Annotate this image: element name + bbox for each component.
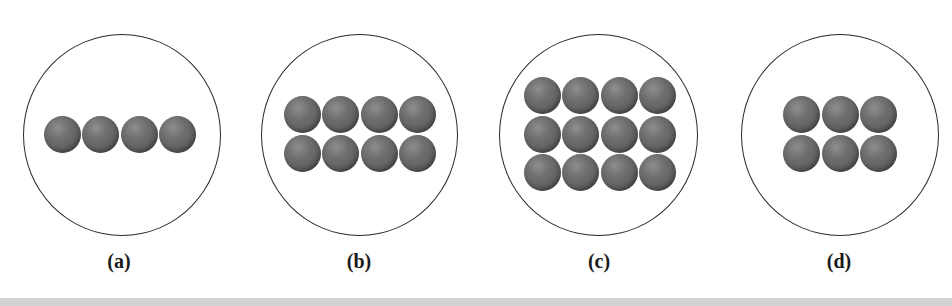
sphere-icon [562,154,599,191]
sphere-icon [562,116,599,153]
sphere-icon [121,116,158,153]
sphere-icon [601,77,638,114]
panel-b: (b) [240,0,478,298]
sphere-icon [601,116,638,153]
sphere-icon [284,96,321,133]
sphere-icon [562,77,599,114]
sphere-icon [822,135,859,172]
panel-c: (c) [480,0,718,298]
sphere-icon [524,154,561,191]
sphere-icon [322,135,359,172]
circle-boundary [261,34,458,236]
panel-label: (a) [0,250,238,273]
sphere-icon [82,116,119,153]
sphere-icon [399,135,436,172]
panel-label: (d) [720,250,952,273]
sphere-icon [44,116,81,153]
sphere-icon [361,135,398,172]
sphere-icon [860,96,897,133]
sphere-icon [361,96,398,133]
sphere-icon [783,135,820,172]
panel-d: (d) [720,0,952,298]
sphere-icon [524,116,561,153]
panel-label: (b) [240,250,478,273]
sphere-icon [822,96,859,133]
sphere-icon [524,77,561,114]
sphere-icon [639,116,676,153]
sphere-icon [159,116,196,153]
sphere-icon [783,96,820,133]
sphere-icon [860,135,897,172]
bottom-divider [0,298,952,306]
panel-a: (a) [0,0,238,298]
sphere-icon [639,77,676,114]
sphere-icon [601,154,638,191]
sphere-icon [284,135,321,172]
sphere-icon [639,154,676,191]
panel-label: (c) [480,250,718,273]
